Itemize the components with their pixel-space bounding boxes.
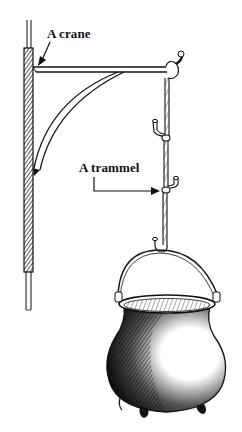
crane-pointer-arrow [38, 42, 50, 66]
trammel-pointer-arrow [94, 177, 160, 195]
crane-trammel-drawing [0, 0, 242, 432]
trammel-bar [153, 78, 179, 252]
cauldron [107, 295, 226, 418]
crane-end-hook [166, 51, 184, 79]
crane-arm [33, 67, 168, 72]
crane-label: A crane [47, 26, 91, 42]
trammel-label: A trammel [79, 160, 139, 176]
pot-bail [115, 250, 220, 302]
vertical-post [24, 20, 33, 310]
